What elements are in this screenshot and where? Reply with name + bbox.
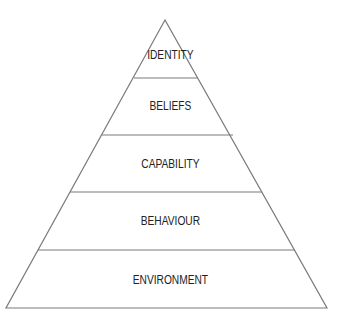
level-label-identity: IDENTITY: [25, 48, 316, 62]
level-label-behaviour: BEHAVIOUR: [25, 214, 316, 228]
level-label-capability: CAPABILITY: [25, 157, 316, 171]
level-label-beliefs: BELIEFS: [25, 99, 316, 113]
level-label-environment: ENVIRONMENT: [25, 273, 316, 287]
